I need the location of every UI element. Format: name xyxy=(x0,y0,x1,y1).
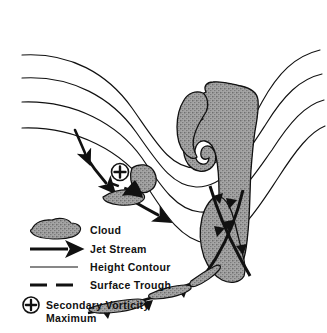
legend-label-cloud: Cloud xyxy=(90,224,121,236)
legend-item-surface-trough[interactable]: Surface Trough xyxy=(30,279,171,291)
jet-stream-arrow-1 xyxy=(75,130,85,153)
legend-label-jet-stream: Jet Stream xyxy=(90,243,147,255)
figure-canvas: Cloud Jet Stream Height Contour Surface … xyxy=(0,0,327,333)
cloud-blob-swatch-icon xyxy=(31,218,81,239)
circled-plus-swatch-icon xyxy=(23,297,39,313)
height-contour-1 xyxy=(22,50,320,168)
legend-item-secondary-vorticity-maximum[interactable]: Secondary Vorticity Maximum xyxy=(23,297,150,324)
legend-label-surface-trough: Surface Trough xyxy=(90,279,171,291)
height-contour-3 xyxy=(22,100,324,212)
height-contour-2 xyxy=(22,74,322,187)
legend-item-height-contour[interactable]: Height Contour xyxy=(30,261,171,273)
legend-item-cloud[interactable]: Cloud xyxy=(31,218,122,239)
legend-item-jet-stream[interactable]: Jet Stream xyxy=(30,243,147,255)
legend-label-secondary-vorticity-line2: Maximum xyxy=(46,312,97,324)
diagram-svg: Cloud Jet Stream Height Contour Surface … xyxy=(0,0,327,333)
height-contour-group xyxy=(22,50,325,243)
legend-label-height-contour: Height Contour xyxy=(90,261,171,273)
secondary-vorticity-maximum-symbol xyxy=(112,164,129,181)
jet-stream-arrow-2 xyxy=(85,155,106,183)
legend-label-secondary-vorticity-line1: Secondary Vorticity xyxy=(46,299,150,311)
legend: Cloud Jet Stream Height Contour Surface … xyxy=(23,218,171,324)
